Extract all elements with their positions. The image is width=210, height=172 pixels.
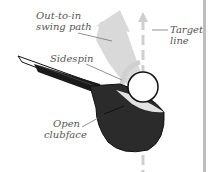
swing-path-label-line1: Out-to-in (36, 10, 80, 21)
clubface-label: Open clubface (44, 118, 80, 140)
target-line-label-line2: line (170, 35, 203, 46)
target-line-label: Target line (170, 24, 203, 46)
swing-path-label-line2: swing path (36, 21, 80, 32)
golf-slice-diagram: Out-to-in swing path Target line Sidespi… (0, 0, 210, 172)
sidespin-label-text: Sidespin (50, 53, 94, 64)
swing-path-label: Out-to-in swing path (36, 10, 80, 32)
clubface-label-line1: Open (44, 118, 80, 129)
frame-rule (203, 0, 206, 172)
sidespin-label: Sidespin (50, 53, 94, 64)
target-line-label-line1: Target (170, 24, 203, 35)
golf-ball (128, 72, 158, 102)
clubface-label-line2: clubface (44, 129, 80, 140)
